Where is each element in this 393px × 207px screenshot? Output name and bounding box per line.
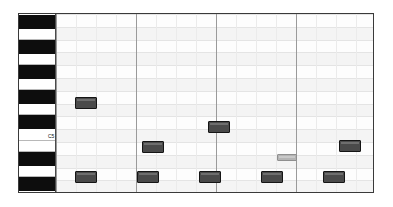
midi-note[interactable] bbox=[75, 171, 97, 183]
piano-key-white-5[interactable] bbox=[19, 79, 56, 90]
piano-key-white-1[interactable] bbox=[19, 29, 56, 40]
grid-beat-line bbox=[116, 14, 117, 192]
grid-beat-line bbox=[256, 14, 257, 192]
piano-key-black-0[interactable] bbox=[19, 15, 56, 29]
grid-row-band bbox=[56, 78, 373, 91]
editor-frame: C5 bbox=[18, 13, 374, 193]
grid-row-line bbox=[56, 168, 373, 169]
piano-key-black-2[interactable] bbox=[19, 40, 56, 54]
piano-key-black-4[interactable] bbox=[19, 65, 56, 79]
grid-bar-line bbox=[216, 14, 217, 192]
grid-beat-line bbox=[316, 14, 317, 192]
piano-key-white-12[interactable] bbox=[19, 166, 56, 177]
grid-row-line bbox=[56, 40, 373, 41]
midi-note[interactable] bbox=[75, 97, 97, 109]
piano-key-black-13[interactable] bbox=[19, 177, 56, 191]
grid-beat-line bbox=[176, 14, 177, 192]
grid-row-line bbox=[56, 116, 373, 117]
piano-key-black-8[interactable] bbox=[19, 115, 56, 129]
midi-note[interactable] bbox=[261, 171, 283, 183]
grid-bar-line bbox=[136, 14, 137, 192]
midi-note[interactable] bbox=[323, 171, 345, 183]
grid-beat-line bbox=[236, 14, 237, 192]
grid-row-line bbox=[56, 27, 373, 28]
midi-note[interactable] bbox=[277, 154, 297, 161]
piano-roll-editor[interactable]: C5 bbox=[0, 0, 393, 207]
piano-key-black-11[interactable] bbox=[19, 152, 56, 166]
midi-note[interactable] bbox=[208, 121, 230, 133]
grid-bar-line bbox=[56, 14, 57, 192]
grid-beat-line bbox=[356, 14, 357, 192]
grid-row-line bbox=[56, 14, 373, 15]
grid-bar-line bbox=[296, 14, 297, 192]
grid-row-line bbox=[56, 78, 373, 79]
piano-key-black-6[interactable] bbox=[19, 90, 56, 104]
piano-key-white-7[interactable] bbox=[19, 104, 56, 115]
piano-key-white-3[interactable] bbox=[19, 54, 56, 65]
grid-row-band bbox=[56, 27, 373, 40]
grid-beat-line bbox=[336, 14, 337, 192]
midi-note[interactable] bbox=[339, 140, 361, 152]
piano-key-white-14[interactable] bbox=[19, 191, 56, 192]
grid-row-line bbox=[56, 91, 373, 92]
midi-note[interactable] bbox=[137, 171, 159, 183]
grid-row-band bbox=[56, 52, 373, 65]
note-grid[interactable] bbox=[56, 14, 373, 192]
grid-row-line bbox=[56, 104, 373, 105]
grid-row-line bbox=[56, 155, 373, 156]
grid-beat-line bbox=[156, 14, 157, 192]
grid-row-line bbox=[56, 52, 373, 53]
piano-keyboard[interactable]: C5 bbox=[19, 14, 56, 192]
grid-row-line bbox=[56, 142, 373, 143]
piano-key-white-10[interactable] bbox=[19, 141, 56, 152]
midi-note[interactable] bbox=[142, 141, 164, 153]
piano-key-label: C5 bbox=[48, 133, 54, 140]
grid-beat-line bbox=[196, 14, 197, 192]
grid-row-band bbox=[56, 155, 373, 168]
grid-beat-line bbox=[276, 14, 277, 192]
piano-key-white-9[interactable]: C5 bbox=[19, 129, 56, 141]
midi-note[interactable] bbox=[199, 171, 221, 183]
grid-row-line bbox=[56, 65, 373, 66]
